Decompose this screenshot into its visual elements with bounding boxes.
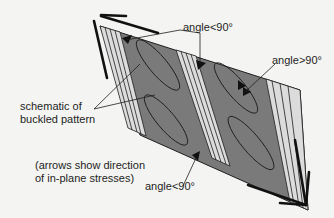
arrows-note-line-2: of in-plane stresses) [35,172,145,185]
schematic-line-2: buckled pattern [20,113,95,126]
schematic-line-1: schematic of [20,100,95,113]
label-schematic: schematic of buckled pattern [20,100,95,126]
arrows-note-line-1: (arrows show direction [35,159,145,172]
label-arrows-note: (arrows show direction of in-plane stres… [35,159,145,185]
label-angle-bottom: angle<90° [145,180,195,193]
label-angle-right: angle>90° [272,54,322,67]
label-angle-top: angle<90° [183,21,233,34]
